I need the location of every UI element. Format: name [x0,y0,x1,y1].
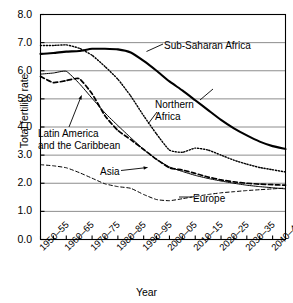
y-tick-label: 2.0 [2,176,32,188]
latin-america-line2: and the Caribbean [38,140,120,152]
y-tick-label: 4.0 [2,120,32,132]
x-axis-title: Year [0,286,293,298]
y-tick-label: 7.0 [2,36,32,48]
leader-line [147,44,164,52]
series-label-asia: Asia [100,166,119,178]
y-tick-label: 3.0 [2,148,32,160]
series-lines [41,45,286,201]
chart-figure: Total fertility rate Year 8.07.06.05.04.… [0,0,293,303]
latin-america-line1: Latin America [38,128,120,140]
y-tick-label: 0.0 [2,233,32,245]
series-label-sub-saharan-africa: Sub-Saharan Africa [164,40,251,52]
series-label-europe: Europe [193,193,225,205]
northern-africa-line1: Northern [155,99,194,111]
y-tick-label: 8.0 [2,8,32,20]
y-tick-label: 5.0 [2,92,32,104]
y-tick-marks [41,15,45,240]
series-label-northern-africa: Northern Africa [155,99,194,122]
leader-line [121,168,148,171]
northern-africa-line2: Africa [155,111,194,123]
leader-line [69,96,82,128]
series-label-latin-america: Latin America and the Caribbean [38,128,120,151]
y-tick-label: 1.0 [2,204,32,216]
y-tick-label: 6.0 [2,64,32,76]
leader-line [200,89,213,100]
